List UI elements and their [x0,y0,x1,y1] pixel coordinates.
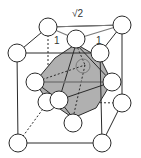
atom-corner-front-top-right [91,44,109,62]
atom-face-left [26,73,44,91]
fcc-diagram: √2 1 1 [0,0,141,158]
atom-corner-back-bottom-right [113,94,131,112]
label-edge-right: 1 [96,35,102,46]
atom-corner-front-top-left [8,44,26,62]
atom-face-bottom [64,114,82,132]
atom-corner-front-bottom-left [9,134,27,152]
atom-corner-back-top-right [113,16,131,34]
label-edge-left: 1 [54,35,60,46]
atom-corner-front-bottom-right [93,134,111,152]
atom-corner-back-top-left [39,18,57,36]
atom-face-front [50,91,68,109]
label-sqrt2: √2 [72,8,83,19]
atom-face-top [67,30,85,48]
atom-face-right [103,73,121,91]
